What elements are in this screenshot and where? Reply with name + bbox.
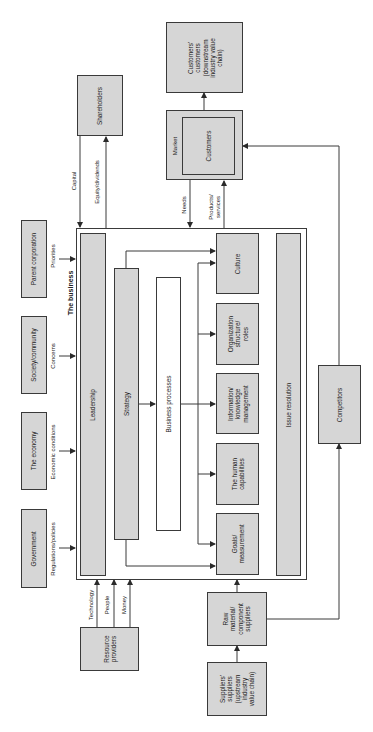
shareholders-label: Shareholders xyxy=(96,86,103,124)
money-label: Money xyxy=(121,596,128,614)
suppliers-suppliers-box[interactable]: Suppliers' suppliers (upstream industry … xyxy=(207,662,267,716)
priorities-label: Priorities xyxy=(50,244,57,267)
regulations-label: Regulations/policies xyxy=(50,522,57,575)
raw-material-label: Raw material/ component suppliers xyxy=(222,603,251,635)
information-box[interactable]: Information/ knowledge management xyxy=(216,373,259,434)
customers-customers-label: Customers' customers (downstream industr… xyxy=(186,38,222,77)
organization-box[interactable]: Organization structure/ roles xyxy=(216,303,259,365)
business-processes-label: Business processes xyxy=(165,376,172,433)
concerns-label: Concerns xyxy=(50,343,57,369)
business-frame xyxy=(76,228,307,580)
leadership-box[interactable]: Leadership xyxy=(80,233,106,576)
strategy-box[interactable]: Strategy xyxy=(114,268,139,540)
human-capabilities-label: The human capabilities xyxy=(230,458,245,490)
goals-label: Goals/ measurement xyxy=(230,524,245,563)
strategy-label: Strategy xyxy=(123,392,130,416)
market-box[interactable]: Market Customers xyxy=(166,110,243,180)
products-label: Products/ services xyxy=(208,194,222,219)
customers-box[interactable]: Customers xyxy=(182,117,235,175)
competitors-box[interactable]: Competitors xyxy=(318,365,361,444)
economy-label: The economy xyxy=(30,432,37,471)
issue-resolution-label: Issue resolution xyxy=(285,382,292,427)
leadership-label: Leadership xyxy=(89,389,96,421)
needs-label: Needs xyxy=(181,196,188,213)
equity-label: Equity/dividends xyxy=(94,160,101,204)
business-title: The business xyxy=(68,271,75,316)
people-label: People xyxy=(104,596,111,615)
customers-label: Customers xyxy=(205,131,212,162)
society-label: Society/community xyxy=(30,328,37,382)
parent-corporation-box[interactable]: Parent corporation xyxy=(21,220,47,298)
human-capabilities-box[interactable]: The human capabilities xyxy=(216,443,259,505)
suppliers-suppliers-label: Suppliers' suppliers (upstream industry … xyxy=(219,672,255,706)
goals-box[interactable]: Goals/ measurement xyxy=(216,513,259,575)
technology-label: Technology xyxy=(88,590,95,620)
society-box[interactable]: Society/community xyxy=(21,316,47,394)
culture-box[interactable]: Culture xyxy=(216,233,259,294)
organization-label: Organization structure/ roles xyxy=(227,316,249,352)
resource-providers-label: Resource providers xyxy=(102,635,117,662)
economic-conditions-label: Economic conditions xyxy=(50,424,57,479)
resource-providers-box[interactable]: Resource providers xyxy=(80,627,139,671)
information-label: Information/ knowledge management xyxy=(227,385,249,422)
business-processes-box[interactable]: Business processes xyxy=(156,277,181,531)
parent-corporation-label: Parent corporation xyxy=(30,233,37,286)
government-label: Government xyxy=(30,531,37,566)
raw-material-box[interactable]: Raw material/ component suppliers xyxy=(207,592,267,646)
competitors-label: Competitors xyxy=(336,387,343,421)
shareholders-box[interactable]: Shareholders xyxy=(77,75,123,136)
capital-label: Capital xyxy=(71,172,78,191)
culture-label: Culture xyxy=(234,253,241,274)
issue-resolution-box[interactable]: Issue resolution xyxy=(276,233,301,576)
customers-customers-box[interactable]: Customers' customers (downstream industr… xyxy=(166,22,243,93)
government-box[interactable]: Government xyxy=(21,509,47,588)
market-label: Market xyxy=(172,137,179,155)
economy-box[interactable]: The economy xyxy=(21,412,47,490)
